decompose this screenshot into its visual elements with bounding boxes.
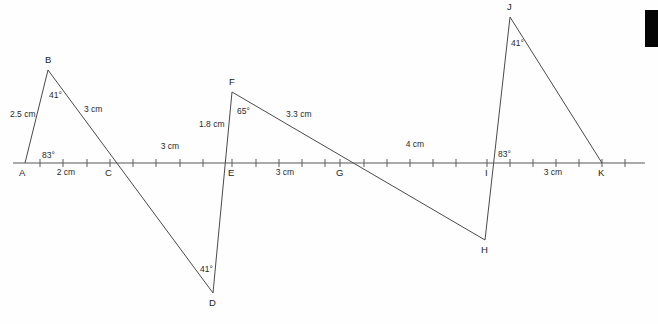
angle-label-d: 41° — [200, 264, 213, 274]
segment-h-j — [485, 17, 510, 240]
length-label-1: 3 cm — [84, 104, 102, 114]
point-label-e: E — [228, 167, 234, 178]
triangle-segments — [25, 17, 602, 293]
point-label-b: B — [45, 54, 51, 65]
point-label-j: J — [507, 1, 512, 12]
geometry-diagram: ABCDEFGHIJK 2.5 cm3 cm2 cm3 cm1.8 cm3.3 … — [0, 0, 658, 324]
point-label-g: G — [336, 167, 343, 178]
angle-label-b: 41° — [49, 90, 62, 100]
point-label-c: C — [105, 167, 112, 178]
length-label-2: 2 cm — [57, 167, 75, 177]
length-label-0: 2.5 cm — [10, 109, 36, 119]
angle-label-i: 83° — [498, 149, 511, 159]
point-label-d: D — [209, 297, 216, 308]
length-label-7: 4 cm — [406, 139, 424, 149]
point-label-a: A — [19, 167, 26, 178]
segment-b-d — [48, 70, 213, 293]
length-label-5: 3.3 cm — [286, 109, 312, 119]
angle-labels: 83°41°41°65°83°41° — [42, 38, 524, 274]
length-label-6: 3 cm — [276, 167, 294, 177]
length-label-4: 1.8 cm — [199, 119, 225, 129]
diagram-canvas: ABCDEFGHIJK 2.5 cm3 cm2 cm3 cm1.8 cm3.3 … — [0, 0, 658, 324]
length-label-3: 3 cm — [161, 141, 179, 151]
segment-f-h — [232, 92, 485, 240]
angle-label-a: 83° — [42, 150, 55, 160]
length-label-8: 3 cm — [544, 167, 562, 177]
point-label-k: K — [598, 167, 605, 178]
point-label-f: F — [229, 76, 235, 87]
length-labels: 2.5 cm3 cm2 cm3 cm1.8 cm3.3 cm3 cm4 cm3 … — [10, 104, 562, 177]
angle-label-f: 65° — [237, 106, 250, 116]
point-label-h: H — [481, 244, 488, 255]
angle-label-j: 41° — [511, 38, 524, 48]
point-label-i: I — [485, 167, 488, 178]
black-edge-bar — [645, 10, 658, 47]
